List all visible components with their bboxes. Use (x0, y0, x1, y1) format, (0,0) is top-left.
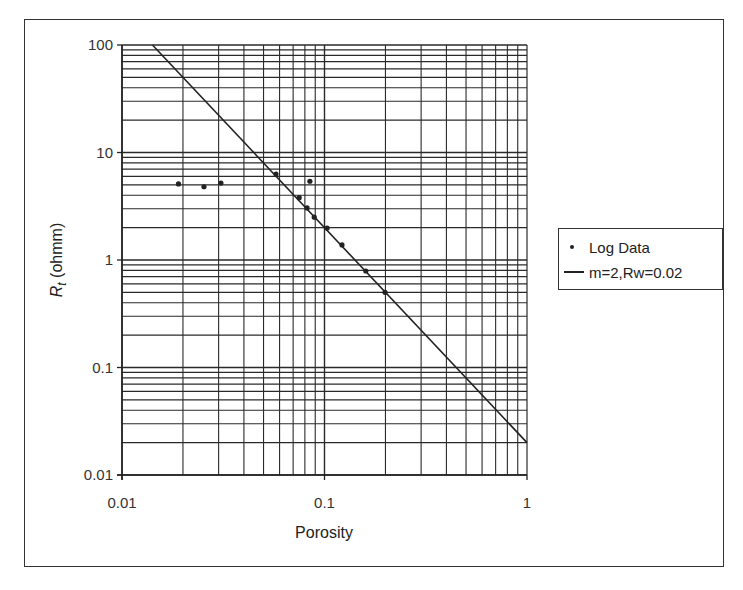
y-tick-label: 10 (96, 144, 113, 161)
plot-grid (122, 45, 527, 475)
data-point (218, 180, 223, 185)
data-point (324, 226, 329, 231)
data-point (297, 195, 302, 200)
data-point (363, 268, 368, 273)
legend-item-log-data: Log Data (559, 235, 650, 259)
data-point (176, 181, 181, 186)
data-point (339, 242, 344, 247)
x-axis-title: Porosity (295, 524, 353, 541)
data-point (307, 179, 312, 184)
x-tick-label: 0.01 (107, 494, 136, 511)
data-point (382, 290, 387, 295)
y-tick-label: 0.1 (92, 359, 113, 376)
x-tick-label: 0.1 (314, 494, 335, 511)
legend-label: Log Data (589, 239, 650, 256)
data-point (304, 205, 309, 210)
data-point (273, 171, 278, 176)
chart-legend: Log Data m=2,Rw=0.02 (558, 228, 723, 290)
y-axis-title-unit: (ohmm) (48, 223, 65, 283)
y-tick-label: 0.01 (84, 466, 113, 483)
y-tick-label: 1 (105, 251, 113, 268)
x-tick-label: 1 (523, 494, 531, 511)
legend-label: m=2,Rw=0.02 (589, 264, 682, 281)
tick-labels: 1001010.10.010.010.11 (84, 36, 531, 511)
data-point (201, 184, 206, 189)
y-tick-label: 100 (88, 36, 113, 53)
data-point (312, 215, 317, 220)
dot-marker-icon (559, 245, 585, 249)
legend-item-fit-line: m=2,Rw=0.02 (559, 260, 682, 284)
line-marker-icon (559, 271, 585, 273)
y-axis-title: Rt (ohmm) (48, 223, 69, 297)
chart-plot: 1001010.10.010.010.11 Porosity Rt (ohmm) (0, 0, 743, 590)
y-axis-title-main: R (48, 285, 65, 297)
